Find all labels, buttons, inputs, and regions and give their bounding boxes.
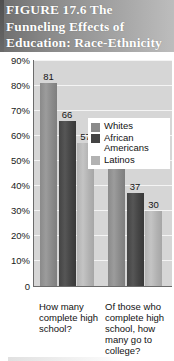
- bar: [40, 83, 57, 286]
- figure-container: FIGURE 17.6 The Funneling Effects of Edu…: [0, 0, 174, 361]
- y-axis-tick-label: 30%: [0, 205, 30, 216]
- figure-header: FIGURE 17.6 The Funneling Effects of Edu…: [0, 0, 174, 52]
- legend-swatch-icon: [91, 134, 100, 143]
- figure-title: FIGURE 17.6 The Funneling Effects of Edu…: [6, 2, 170, 52]
- legend-item: Whites: [91, 121, 168, 132]
- figure-title-line-2: Funneling Effects of: [6, 19, 170, 36]
- legend-item-label: Latinos: [104, 155, 135, 166]
- figure-title-line-3: Education: Race-Ethnicity: [6, 35, 170, 52]
- legend-swatch-icon: [91, 156, 100, 165]
- y-axis: 90%80%70%60%50%40%30%20%10%0: [0, 52, 33, 299]
- page-bottom-cutoff: [8, 357, 128, 361]
- plot-inner: 816657493730: [34, 60, 172, 286]
- y-axis-tick-label: 40%: [0, 180, 30, 191]
- header-accent-strip: [0, 0, 4, 52]
- legend-swatch-icon: [91, 123, 100, 132]
- y-axis-tick-label: 10%: [0, 255, 30, 266]
- bar-value-label: 81: [38, 71, 59, 82]
- x-axis-label-group-2: Of those who complete high school, how m…: [101, 299, 174, 361]
- bar-value-label: 30: [143, 199, 164, 210]
- y-axis-tick-label: 20%: [0, 230, 30, 241]
- bar-value-label: 37: [125, 181, 146, 192]
- bar: [108, 163, 125, 286]
- bar: [145, 211, 162, 286]
- y-axis-tick-label: 80%: [0, 80, 30, 91]
- x-axis-label-group-1: How many complete high school?: [33, 299, 101, 361]
- x-axis-labels: How many complete high school? Of those …: [33, 299, 174, 361]
- bar: [59, 121, 76, 286]
- chart-legend: WhitesAfrican AmericansLatinos: [88, 118, 170, 169]
- bar-value-label: 66: [57, 109, 78, 120]
- bar: [127, 193, 144, 286]
- y-axis-tick-label: 50%: [0, 155, 30, 166]
- y-axis-tick-label: 60%: [0, 130, 30, 141]
- y-axis-tick-label: 70%: [0, 105, 30, 116]
- chart-area: 90%80%70%60%50%40%30%20%10%0 81665749373…: [0, 52, 174, 299]
- gridline: [34, 60, 172, 61]
- legend-item-label: African Americans: [104, 133, 168, 154]
- y-axis-tick-label: 90%: [0, 55, 30, 66]
- figure-title-line-1: FIGURE 17.6 The: [6, 2, 170, 19]
- legend-item: Latinos: [91, 155, 168, 166]
- legend-item-label: Whites: [104, 121, 133, 132]
- y-axis-tick-label: 0: [0, 280, 30, 291]
- plot-area: 816657493730: [33, 60, 172, 287]
- legend-item: African Americans: [91, 133, 168, 154]
